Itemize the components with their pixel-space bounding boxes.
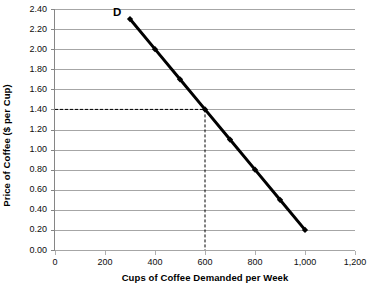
series-label-d: D — [113, 6, 121, 18]
demand-curve-chart: Price of Coffee ($ per Cup) Cups of Coff… — [0, 0, 381, 291]
series-layer — [0, 0, 381, 291]
